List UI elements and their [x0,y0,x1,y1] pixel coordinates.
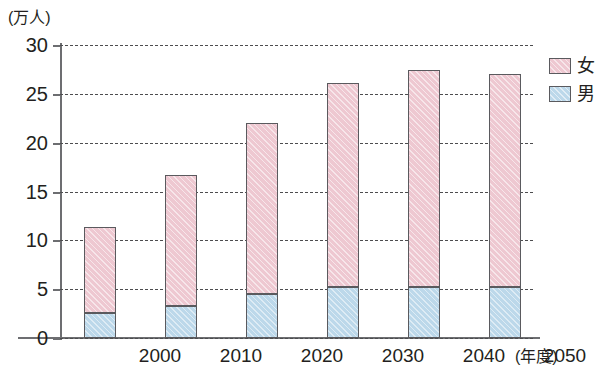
x-axis-tick-label: 2030 [358,345,448,367]
bar-group[interactable] [246,45,278,338]
bar-segment-female[interactable] [327,83,359,287]
legend-label: 女 [577,57,595,75]
y-axis-tick-label: 0 [0,328,48,348]
y-axis-tick-label: 15 [0,182,48,202]
y-axis-tick-label: 10 [0,230,48,250]
gridline [60,94,533,95]
gridline [60,289,533,290]
y-axis-unit-label: (万人) [8,4,51,28]
y-axis-tick [53,192,60,194]
y-axis-tick [53,289,60,291]
legend: 女男 [549,52,595,108]
gridline [60,240,533,241]
y-axis-tick-label: 25 [0,84,48,104]
bar-group[interactable] [84,45,116,338]
y-axis-tick-label: 20 [0,133,48,153]
x-axis-tick-label: 2010 [196,345,286,367]
x-axis-unit-label: (年度) [515,345,558,369]
bar-segment-male[interactable] [246,294,278,338]
bar-group[interactable] [165,45,197,338]
x-axis-tick-label: 2020 [277,345,367,367]
bar-segment-male[interactable] [84,313,116,338]
bar-group[interactable] [408,45,440,338]
gridline [60,338,533,339]
bar-segment-male[interactable] [327,287,359,338]
bar-segment-female[interactable] [489,74,521,287]
y-axis-tick-label: 30 [0,35,48,55]
bar-group[interactable] [489,45,521,338]
plot-area [60,45,533,338]
legend-item[interactable]: 女 [549,52,595,80]
y-axis-tick [53,45,60,47]
y-axis-tick-label: 5 [0,279,48,299]
bar-segment-male[interactable] [408,287,440,338]
bar-segment-female[interactable] [408,70,440,287]
y-axis-tick [53,240,60,242]
bar-group[interactable] [327,45,359,338]
y-axis-tick [53,143,60,145]
bar-segment-female[interactable] [84,227,116,313]
gridline [60,45,533,46]
legend-label: 男 [577,85,595,103]
legend-swatch [549,86,571,102]
bar-segment-female[interactable] [246,123,278,294]
bar-segment-female[interactable] [165,175,197,306]
x-axis-tick-label: 2000 [115,345,205,367]
legend-item[interactable]: 男 [549,80,595,108]
gridline [60,143,533,144]
gridline [60,192,533,193]
legend-swatch [549,58,571,74]
y-axis-tick [53,94,60,96]
stacked-bar-chart: (万人) 051015202530 2000201020202030204020… [0,0,601,377]
y-axis-tick [53,338,60,340]
bar-segment-male[interactable] [165,306,197,338]
bar-segment-male[interactable] [489,287,521,338]
